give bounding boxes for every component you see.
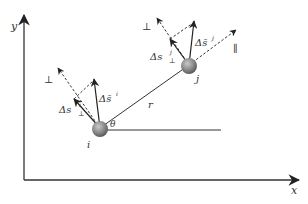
parallel-direction-label-j: ∥ xyxy=(233,43,238,54)
disp-sup-i: i xyxy=(116,90,118,97)
particle-i-label: i xyxy=(87,139,90,150)
separation-label: r xyxy=(148,99,154,110)
perp-disp-main-i: Δs xyxy=(58,104,71,115)
perp-direction-label-j: ⊥ xyxy=(142,21,151,32)
disp-main-j: Δs̄ xyxy=(194,37,208,48)
perp-disp-sub-j: ⊥ xyxy=(169,57,176,65)
perp-direction-label-i: ⊥ xyxy=(44,74,53,85)
particle-i xyxy=(92,121,108,137)
projection-dash-j xyxy=(170,23,193,39)
perp-displacement-label-i: Δs ⊥ i xyxy=(58,101,85,118)
perp-displacement-label-j: Δs ⊥ j xyxy=(149,48,176,65)
perp-disp-main-j: Δs xyxy=(149,51,162,62)
x-axis-label: x xyxy=(291,184,298,197)
particle-j xyxy=(181,58,197,74)
perp-disp-sub-i: ⊥ xyxy=(78,110,85,118)
displacement-label-i: Δs̄ i xyxy=(98,90,118,104)
displacement-label-j: Δs̄ j xyxy=(194,34,214,48)
perp-direction-i xyxy=(58,68,100,128)
y-axis-label: y xyxy=(10,20,18,33)
perp-disp-sup-j: j xyxy=(168,48,172,56)
projection-dash-i xyxy=(74,80,94,99)
svg-text:Δs: Δs xyxy=(58,104,71,115)
perp-disp-sup-i: i xyxy=(79,101,81,108)
disp-sup-j: j xyxy=(210,34,214,42)
disp-main-i: Δs̄ xyxy=(98,93,112,104)
particle-j-label: j xyxy=(194,73,199,84)
diagram-canvas: y x r θ ⊥ Δs ⊥ i Δs̄ i ⊥ ∥ Δs ⊥ j Δs̄ j … xyxy=(0,0,308,204)
angle-label: θ xyxy=(110,119,116,129)
